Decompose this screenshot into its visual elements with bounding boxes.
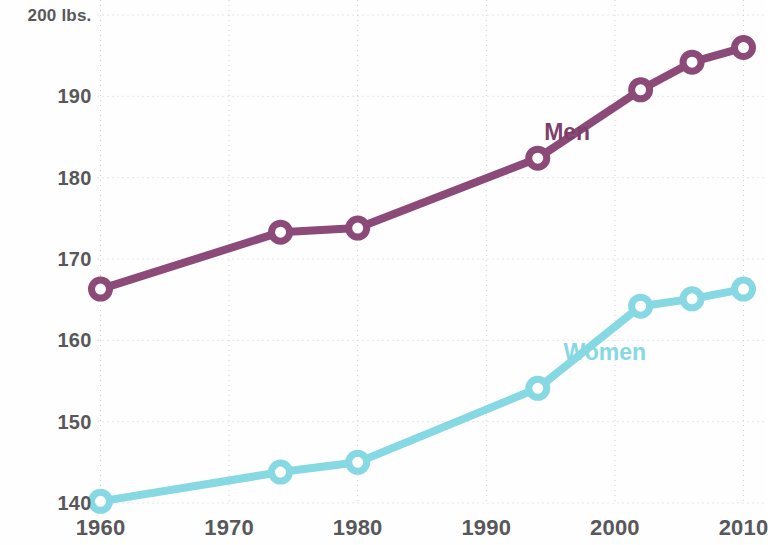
series-label-men: Men — [544, 119, 590, 146]
y-axis-tick-170: 170 — [58, 248, 92, 271]
x-axis-tick-2010: 2010 — [684, 515, 772, 541]
data-point-marker-women — [683, 290, 701, 308]
y-axis-tick-140: 140 — [58, 492, 92, 515]
data-point-marker-men — [529, 149, 547, 167]
data-point-marker-men — [272, 223, 290, 241]
series-label-women: Women — [563, 339, 646, 366]
data-point-marker-women — [632, 297, 650, 315]
data-point-marker-women — [735, 280, 753, 298]
data-point-marker-women — [529, 379, 547, 397]
data-point-marker-women — [349, 453, 367, 471]
y-axis-tick-190: 190 — [58, 85, 92, 108]
data-point-marker-men — [683, 53, 701, 71]
x-axis-tick-1970: 1970 — [169, 515, 289, 541]
data-point-marker-men — [92, 280, 110, 298]
y-axis-tick-200: 200 lbs. — [28, 6, 92, 26]
vertical-gridlines — [101, 0, 744, 505]
data-point-marker-men — [349, 219, 367, 237]
y-axis-tick-150: 150 — [58, 411, 92, 434]
x-axis-tick-1980: 1980 — [298, 515, 418, 541]
series-lines — [101, 48, 744, 502]
series-line-women — [101, 289, 744, 501]
x-axis-tick-1990: 1990 — [426, 515, 546, 541]
data-point-marker-men — [632, 81, 650, 99]
y-axis-tick-180: 180 — [58, 167, 92, 190]
x-axis-tick-1960: 1960 — [41, 515, 161, 541]
data-point-marker-women — [92, 492, 110, 510]
x-axis-tick-2000: 2000 — [555, 515, 675, 541]
data-point-marker-women — [272, 463, 290, 481]
data-point-marker-men — [735, 39, 753, 57]
y-axis-tick-160: 160 — [58, 329, 92, 352]
